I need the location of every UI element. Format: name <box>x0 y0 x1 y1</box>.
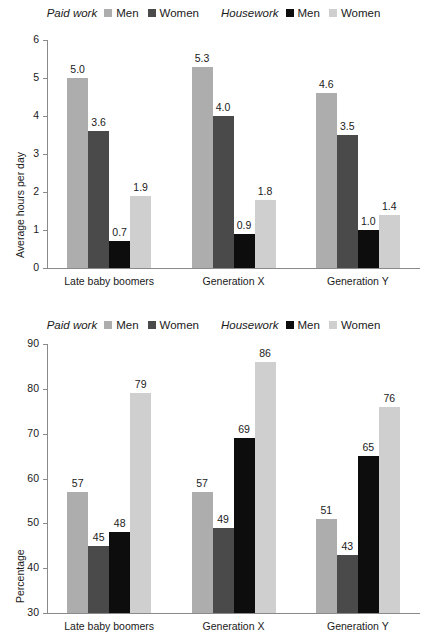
bar-value-label: 76 <box>373 392 406 404</box>
bar[interactable] <box>379 215 400 268</box>
y-tick-mark <box>43 78 47 79</box>
legend-swatch-icon <box>329 321 337 329</box>
legend-entry-housework-men[interactable]: Men <box>286 319 320 331</box>
bar[interactable] <box>67 78 88 268</box>
y-tick-label: 5 <box>13 71 39 83</box>
legend-group-title: Paid work <box>47 7 98 19</box>
legend-entry-label: Women <box>341 319 380 331</box>
legend-entry-label: Men <box>298 7 320 19</box>
legend-group-paid-work: Paid workMenWomen <box>47 7 199 19</box>
figure: Paid workMenWomenHouseworkMenWomen Avera… <box>0 0 427 643</box>
bar-value-label: 1.4 <box>373 200 406 212</box>
bar[interactable] <box>109 241 130 268</box>
legend-entry-housework-women[interactable]: Women <box>329 319 380 331</box>
bar[interactable] <box>192 67 213 268</box>
bar[interactable] <box>213 116 234 268</box>
bar[interactable] <box>130 196 151 268</box>
bar[interactable] <box>358 230 379 268</box>
x-category-label: Generation X <box>171 620 295 632</box>
legend-swatch-icon <box>148 321 156 329</box>
bar[interactable] <box>379 407 400 613</box>
chart-panel-percentage: Paid workMenWomenHouseworkMenWomen Perce… <box>0 312 427 643</box>
legend-entry-label: Men <box>116 7 138 19</box>
legend-entry-label: Women <box>341 7 380 19</box>
x-category-label: Generation X <box>171 275 295 287</box>
bar-value-label: 3.6 <box>82 116 115 128</box>
legend-entry-label: Women <box>160 319 199 331</box>
x-category-label: Generation Y <box>296 275 420 287</box>
y-tick-mark <box>43 192 47 193</box>
legend-swatch-icon <box>104 321 112 329</box>
bar-value-label: 1.9 <box>124 181 157 193</box>
bar[interactable] <box>213 528 234 613</box>
legend-group-title: Housework <box>221 7 279 19</box>
y-tick-mark <box>43 116 47 117</box>
y-tick-label: 80 <box>13 382 39 394</box>
bar-value-label: 5.0 <box>61 63 94 75</box>
y-tick-mark <box>43 230 47 231</box>
y-tick-label: 4 <box>13 109 39 121</box>
y-axis-line <box>47 40 48 269</box>
y-axis-line <box>47 344 48 614</box>
legend-swatch-icon <box>104 9 112 17</box>
legend-entry-label: Men <box>116 319 138 331</box>
bar-value-label: 51 <box>310 504 343 516</box>
y-tick-mark <box>43 523 47 524</box>
x-category-label: Generation Y <box>296 620 420 632</box>
bar-value-label: 86 <box>249 347 282 359</box>
x-axis-line <box>47 613 420 614</box>
bar-value-label: 4.6 <box>310 78 343 90</box>
bar[interactable] <box>88 131 109 268</box>
bar[interactable] <box>358 456 379 613</box>
legend-group-paid-work: Paid workMenWomen <box>47 319 199 331</box>
legend-entry-paid-work-women[interactable]: Women <box>148 7 199 19</box>
y-axis-label: Average hours per day <box>14 152 26 258</box>
legend-entry-paid-work-men[interactable]: Men <box>104 7 138 19</box>
bar[interactable] <box>337 135 358 268</box>
bar[interactable] <box>255 362 276 613</box>
bar-value-label: 1.8 <box>249 185 282 197</box>
y-tick-mark <box>43 268 47 269</box>
bar[interactable] <box>192 492 213 613</box>
legend-swatch-icon <box>148 9 156 17</box>
y-tick-mark <box>43 40 47 41</box>
bar[interactable] <box>316 519 337 613</box>
bar[interactable] <box>88 546 109 613</box>
bar[interactable] <box>109 532 130 613</box>
bar[interactable] <box>337 555 358 613</box>
legend-swatch-icon <box>286 321 294 329</box>
y-tick-label: 50 <box>13 516 39 528</box>
legend-swatch-icon <box>329 9 337 17</box>
y-tick-mark <box>43 154 47 155</box>
legend-entry-housework-women[interactable]: Women <box>329 7 380 19</box>
bar-value-label: 4.0 <box>207 101 240 113</box>
bar-value-label: 79 <box>124 378 157 390</box>
chart-panel-hours: Paid workMenWomenHouseworkMenWomen Avera… <box>0 0 427 305</box>
y-tick-mark <box>43 434 47 435</box>
bar[interactable] <box>67 492 88 613</box>
y-tick-label: 3 <box>13 147 39 159</box>
legend-entry-paid-work-women[interactable]: Women <box>148 319 199 331</box>
y-tick-label: 30 <box>13 606 39 618</box>
legend-entry-paid-work-men[interactable]: Men <box>104 319 138 331</box>
bar-value-label: 57 <box>61 477 94 489</box>
bar[interactable] <box>234 438 255 613</box>
bar[interactable] <box>234 234 255 268</box>
bar[interactable] <box>255 200 276 268</box>
legend-entry-housework-men[interactable]: Men <box>286 7 320 19</box>
y-tick-label: 0 <box>13 261 39 273</box>
legend-group-housework: HouseworkMenWomen <box>221 319 380 331</box>
y-tick-label: 6 <box>13 33 39 45</box>
bar[interactable] <box>130 393 151 613</box>
legend-group-title: Paid work <box>47 319 98 331</box>
legend-group-title: Housework <box>221 319 279 331</box>
legend-percentage: Paid workMenWomenHouseworkMenWomen <box>0 312 427 338</box>
bar-value-label: 57 <box>186 477 219 489</box>
x-category-label: Late baby boomers <box>47 620 171 632</box>
y-tick-mark <box>43 568 47 569</box>
legend-entry-label: Men <box>298 319 320 331</box>
y-axis-label: Percentage <box>14 549 26 603</box>
y-tick-label: 1 <box>13 223 39 235</box>
legend-group-housework: HouseworkMenWomen <box>221 7 380 19</box>
y-tick-label: 60 <box>13 472 39 484</box>
